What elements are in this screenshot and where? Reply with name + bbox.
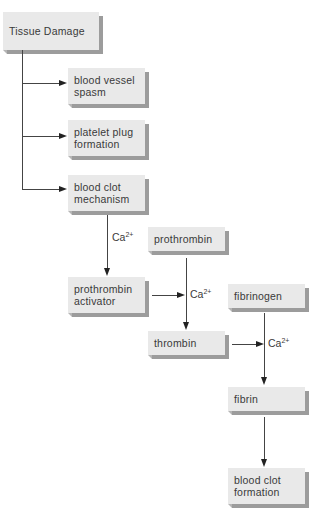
arrow-down-icon — [104, 268, 110, 276]
node-label: platelet plug formation — [74, 126, 133, 150]
arrow-right-icon — [59, 186, 67, 192]
node-prothrombin: prothrombin — [148, 227, 225, 251]
node-fibrinogen: fibrinogen — [228, 284, 305, 308]
connector-line — [264, 417, 265, 461]
node-label: Tissue Damage — [9, 25, 85, 37]
arrow-down-icon — [183, 322, 189, 330]
node-label: prothrombin — [154, 233, 212, 245]
connector-line — [22, 83, 60, 84]
calcium-label: Ca2+ — [112, 231, 133, 243]
arrow-right-icon — [59, 133, 67, 139]
node-blood-vessel-spasm: blood vessel spasm — [68, 68, 145, 104]
arrow-down-icon — [261, 459, 267, 467]
connector-line — [107, 215, 108, 270]
connector-line — [22, 189, 60, 190]
node-label: blood clot mechanism — [74, 181, 129, 205]
node-fibrin: fibrin — [228, 387, 305, 411]
node-platelet-plug-formation: platelet plug formation — [68, 120, 145, 156]
connector-line — [264, 313, 265, 381]
calcium-label: Ca2+ — [190, 288, 211, 300]
node-label: blood vessel spasm — [74, 74, 135, 98]
node-thrombin: thrombin — [148, 331, 225, 355]
node-tissue-damage: Tissue Damage — [3, 12, 99, 50]
arrow-right-icon — [59, 80, 67, 86]
connector-line — [22, 50, 23, 190]
node-label: fibrin — [234, 393, 258, 405]
connector-line — [232, 344, 257, 345]
node-label: fibrinogen — [234, 290, 282, 302]
arrow-right-icon — [177, 292, 185, 298]
connector-line — [22, 136, 60, 137]
node-label: thrombin — [154, 337, 196, 349]
node-blood-clot-mechanism: blood clot mechanism — [68, 175, 145, 211]
arrow-right-icon — [256, 341, 264, 347]
connector-line — [186, 258, 187, 326]
connector-line — [152, 295, 178, 296]
node-blood-clot-formation: blood clot formation — [228, 468, 305, 504]
node-label: prothrombin activator — [74, 283, 132, 307]
calcium-label: Ca2+ — [268, 337, 289, 349]
arrow-down-icon — [261, 377, 267, 385]
node-prothrombin-activator: prothrombin activator — [68, 277, 145, 313]
node-label: blood clot formation — [234, 474, 281, 498]
